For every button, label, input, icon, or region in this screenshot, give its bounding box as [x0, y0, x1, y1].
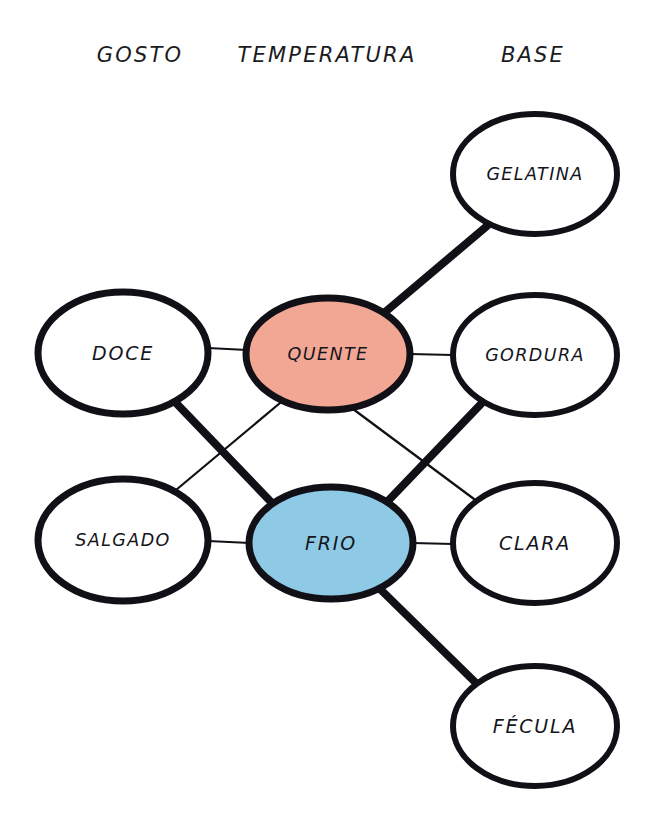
- node-fecula-label: FÉCULA: [493, 715, 578, 737]
- edge-salgado-quente: [176, 398, 286, 490]
- column-header-base: BASE: [501, 43, 565, 67]
- node-gelatina[interactable]: GELATINA: [453, 114, 617, 234]
- node-doce-label: DOCE: [92, 342, 154, 364]
- concept-map-diagram: GOSTO TEMPERATURA BASE DOCE S: [0, 0, 654, 831]
- column-header-gosto: GOSTO: [97, 43, 184, 67]
- node-gelatina-label: GELATINA: [486, 164, 583, 184]
- node-salgado-label: SALGADO: [75, 530, 170, 550]
- node-clara-label: CLARA: [499, 532, 571, 554]
- column-header-temperatura: TEMPERATURA: [238, 43, 417, 67]
- edge-quente-gelatina: [384, 226, 487, 313]
- node-frio[interactable]: FRIO: [249, 487, 413, 599]
- node-gordura[interactable]: GORDURA: [453, 295, 617, 415]
- edge-frio-gordura: [386, 404, 481, 503]
- edge-quente-gordura: [410, 354, 453, 355]
- node-gordura-label: GORDURA: [485, 345, 585, 365]
- node-fecula[interactable]: FÉCULA: [453, 666, 617, 786]
- node-clara[interactable]: CLARA: [453, 483, 617, 603]
- node-frio-label: FRIO: [305, 532, 357, 554]
- column-headers: GOSTO TEMPERATURA BASE: [97, 43, 565, 67]
- node-quente[interactable]: QUENTE: [246, 298, 410, 410]
- edge-salgado-frio: [208, 541, 250, 543]
- concept-map-canvas: GOSTO TEMPERATURA BASE DOCE S: [0, 0, 654, 831]
- edge-doce-quente: [208, 348, 247, 350]
- edge-frio-fecula: [379, 588, 478, 685]
- edge-quente-clara: [353, 409, 474, 499]
- node-salgado[interactable]: SALGADO: [38, 479, 208, 601]
- node-doce[interactable]: DOCE: [38, 292, 208, 414]
- edge-doce-frio: [177, 404, 272, 503]
- edge-frio-clara: [413, 543, 453, 544]
- node-quente-label: QUENTE: [288, 344, 369, 364]
- node-layer: DOCE SALGADO QUENTE FRIO GELATINA GORDUR: [38, 114, 617, 786]
